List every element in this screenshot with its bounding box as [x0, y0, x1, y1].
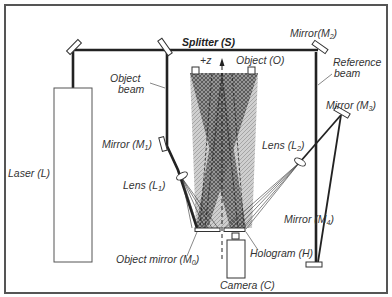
camera-label: Camera (C) — [220, 279, 275, 291]
splitter — [158, 38, 172, 56]
object-box-left — [192, 67, 199, 74]
object-mirror-m0 — [195, 228, 220, 232]
object-mirror-label: Object mirror (M0) — [116, 253, 199, 269]
hologram-label: Hologram (H) — [250, 247, 313, 259]
mirror-m1-label: Mirror (M1) — [102, 138, 152, 154]
lens-l1-label: Lens (L1) — [123, 179, 165, 195]
object-label: Object (O) — [236, 54, 284, 66]
laser-label: Laser (L) — [8, 167, 50, 179]
mirror-m3-label: Mirror (M3) — [326, 99, 376, 115]
reference-beam-leader — [318, 74, 332, 85]
object-box-right — [248, 67, 255, 74]
camera-body — [227, 240, 245, 278]
z-arrow-icon — [220, 58, 225, 66]
object-beam-leader — [150, 83, 165, 88]
hologram-plate — [224, 228, 245, 232]
splitter-label: Splitter (S) — [182, 36, 235, 48]
plus-z-label: +z — [200, 54, 211, 66]
camera-lens — [232, 233, 239, 239]
mirror-m4-label: Mirror (M4) — [284, 213, 334, 229]
object-beam-label-2: beam — [118, 83, 144, 95]
laser-box — [54, 88, 92, 262]
mirror-m2-label: Mirror(M2) — [290, 27, 337, 43]
reference-beam-label-2: beam — [334, 67, 360, 79]
mirror-m4 — [306, 262, 322, 267]
lens-l2-label: Lens (L2) — [262, 139, 304, 155]
